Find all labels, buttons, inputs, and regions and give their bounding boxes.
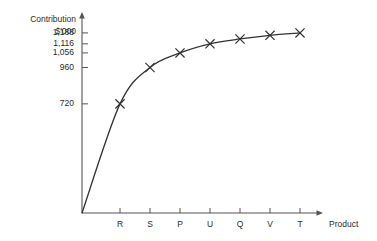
data-point-s (145, 63, 154, 72)
tick-marks-group (82, 33, 300, 213)
y-axis-arrowhead (79, 12, 85, 19)
x-tick-label-r: R (110, 220, 130, 229)
chart-container: Contribution $'000 1,1881,1161,056960720… (0, 0, 377, 241)
data-point-u (205, 39, 214, 48)
y-tick-label-1188: 1,188 (28, 28, 74, 37)
x-tick-label-p: P (170, 220, 190, 229)
contribution-curve (82, 33, 300, 213)
x-tick-label-v: V (260, 220, 280, 229)
data-point-r (115, 99, 124, 108)
data-markers-group (115, 28, 304, 108)
y-tick-label-960: 960 (28, 63, 74, 72)
y-axis-title-line1: Contribution (0, 15, 76, 24)
x-tick-label-s: S (140, 220, 160, 229)
x-axis-arrowhead (317, 210, 324, 216)
y-tick-label-720: 720 (28, 99, 74, 108)
x-axis-title: Product (329, 220, 358, 229)
x-tick-label-q: Q (230, 220, 250, 229)
data-point-p (175, 48, 184, 57)
x-tick-label-t: T (290, 220, 310, 229)
y-tick-label-1056: 1,056 (28, 48, 74, 57)
x-tick-label-u: U (200, 220, 220, 229)
data-series-group (82, 33, 300, 213)
